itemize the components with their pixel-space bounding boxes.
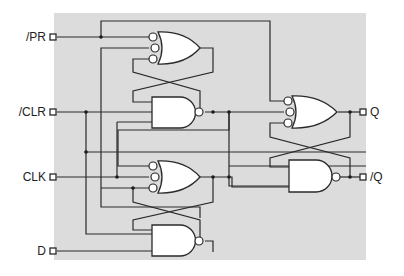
- input-label-clr: /CLR: [2, 105, 46, 119]
- input-label-clk: CLK: [2, 170, 46, 184]
- pin-clk: [50, 174, 56, 180]
- output-label-q: Q: [370, 105, 379, 119]
- pin-pr: [50, 34, 56, 40]
- input-label-pr: /PR: [2, 30, 46, 44]
- pin-clr: [50, 109, 56, 115]
- flip-flop-circuit-diagram: [0, 0, 404, 276]
- input-label-d: D: [2, 244, 46, 258]
- pin-nq: [360, 174, 366, 180]
- pin-q: [360, 109, 366, 115]
- pin-d: [50, 248, 56, 254]
- output-label-nq: /Q: [370, 170, 383, 184]
